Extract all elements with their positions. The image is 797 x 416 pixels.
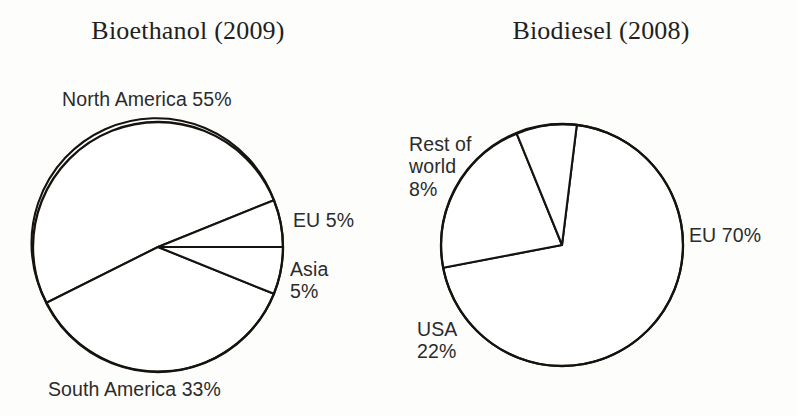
slice-label-eu-biodiesel: EU 70% bbox=[689, 224, 761, 246]
chart-panel-bioethanol: Bioethanol (2009) North America 55% Sout… bbox=[0, 0, 400, 416]
slice-label-asia: Asia 5% bbox=[290, 258, 328, 303]
pie-chart-bioethanol bbox=[0, 0, 400, 416]
slice-label-north-america: North America 55% bbox=[62, 88, 232, 110]
slice-label-south-america: South America 33% bbox=[48, 378, 221, 400]
chart-panel-biodiesel: Biodiesel (2008) Rest of world 8% USA 22… bbox=[397, 0, 797, 416]
slice-label-eu-bioethanol: EU 5% bbox=[293, 209, 354, 231]
figure-canvas: Bioethanol (2009) North America 55% Sout… bbox=[0, 0, 797, 416]
slice-label-rest-of-world: Rest of world 8% bbox=[409, 133, 471, 200]
slice-label-usa: USA 22% bbox=[417, 318, 457, 363]
